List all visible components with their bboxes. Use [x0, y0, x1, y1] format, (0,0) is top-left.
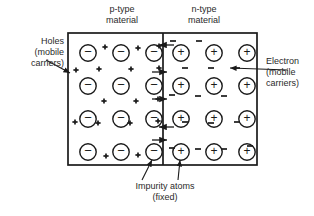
- acceptor-ion-symbol: −: [84, 110, 92, 125]
- donor-ion-symbol: +: [210, 78, 217, 92]
- electron-label: Electron (mobile carriers): [266, 56, 314, 89]
- donor-ion-symbol: +: [177, 144, 184, 158]
- acceptor-ion-symbol: −: [150, 77, 158, 92]
- acceptor-ion-symbol: −: [117, 110, 125, 125]
- donor-ion-symbol: +: [243, 45, 250, 59]
- donor-ion-symbol: +: [210, 45, 217, 59]
- acceptor-ion-symbol: −: [150, 143, 158, 158]
- acceptor-ion-symbol: −: [150, 110, 158, 125]
- acceptor-ion-symbol: −: [117, 143, 125, 158]
- donor-ion-symbol: +: [243, 78, 250, 92]
- acceptor-ion-symbol: −: [84, 143, 92, 158]
- acceptor-ion-symbol: −: [84, 77, 92, 92]
- pn-junction-diagram: −−−−−−−−−−−−++++++++++++ p-type material…: [0, 0, 314, 216]
- impurity-leader-p: [142, 160, 152, 180]
- holes-label: Holes (mobile carriers): [0, 36, 64, 69]
- ntype-material-title: n-type material: [170, 4, 238, 26]
- donor-ion-symbol: +: [177, 45, 184, 59]
- acceptor-ion-symbol: −: [117, 77, 125, 92]
- donor-ion-symbol: +: [210, 144, 217, 158]
- impurity-leader-n: [178, 160, 180, 180]
- donor-ion-symbol: +: [177, 78, 184, 92]
- donor-ion-symbol: +: [243, 111, 250, 125]
- acceptor-ion-symbol: −: [84, 44, 92, 59]
- diagram-geometry: −−−−−−−−−−−−++++++++++++: [46, 33, 288, 180]
- donor-ion-symbol: +: [177, 111, 184, 125]
- ptype-material-title: p-type material: [88, 4, 156, 26]
- acceptor-ion-symbol: −: [117, 44, 125, 59]
- impurity-atoms-caption: Impurity atoms (fixed): [107, 181, 223, 203]
